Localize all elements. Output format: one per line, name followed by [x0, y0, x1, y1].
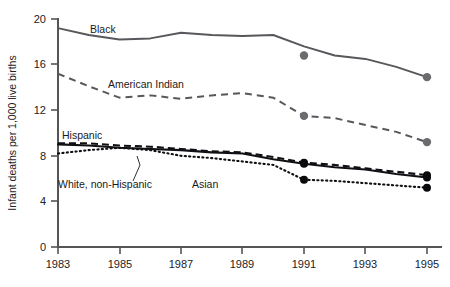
series-label-american-indian: American Indian	[108, 78, 184, 90]
data-point-marker	[423, 184, 431, 192]
y-axis-ticks: 20 16 12 8 4 0	[34, 13, 58, 253]
axis-group	[58, 19, 441, 247]
data-point-marker	[300, 160, 308, 168]
series-label-white-non-hispanic: White, non-Hispanic	[58, 178, 152, 190]
y-tick-label-0: 0	[40, 241, 46, 253]
chart-container: 20 16 12 8 4 0 1983 1985 1987 1989 1991 …	[0, 0, 450, 287]
series-label-asian: Asian	[192, 178, 218, 190]
data-point-marker	[423, 138, 431, 146]
infant-mortality-line-chart: 20 16 12 8 4 0 1983 1985 1987 1989 1991 …	[0, 0, 450, 287]
data-point-marker	[423, 73, 431, 81]
x-tick-label-1989: 1989	[230, 258, 254, 270]
x-tick-label-1991: 1991	[292, 258, 316, 270]
x-tick-label-1993: 1993	[353, 258, 377, 270]
x-tick-label-1983: 1983	[46, 258, 70, 270]
y-axis-title: Infant deaths per 1,000 live births	[6, 55, 18, 210]
x-tick-label-1995: 1995	[415, 258, 439, 270]
x-axis-ticks: 1983 1985 1987 1989 1991 1993 1995	[46, 247, 439, 270]
series-paths	[58, 28, 427, 188]
series-line-black	[58, 28, 427, 77]
y-tick-label-20: 20	[34, 13, 46, 25]
y-tick-label-16: 16	[34, 58, 46, 70]
data-point-marker	[300, 112, 308, 120]
data-point-marker	[300, 176, 308, 184]
y-tick-label-8: 8	[40, 150, 46, 162]
series-label-black: Black	[90, 23, 116, 35]
x-tick-label-1987: 1987	[169, 258, 193, 270]
data-point-marker	[300, 51, 308, 59]
series-annotations: Black American Indian Hispanic White, no…	[58, 23, 218, 190]
x-tick-label-1985: 1985	[108, 258, 132, 270]
data-point-marker	[423, 173, 431, 181]
series-label-hispanic: Hispanic	[62, 129, 102, 141]
y-tick-label-4: 4	[40, 195, 46, 207]
y-tick-label-12: 12	[34, 104, 46, 116]
